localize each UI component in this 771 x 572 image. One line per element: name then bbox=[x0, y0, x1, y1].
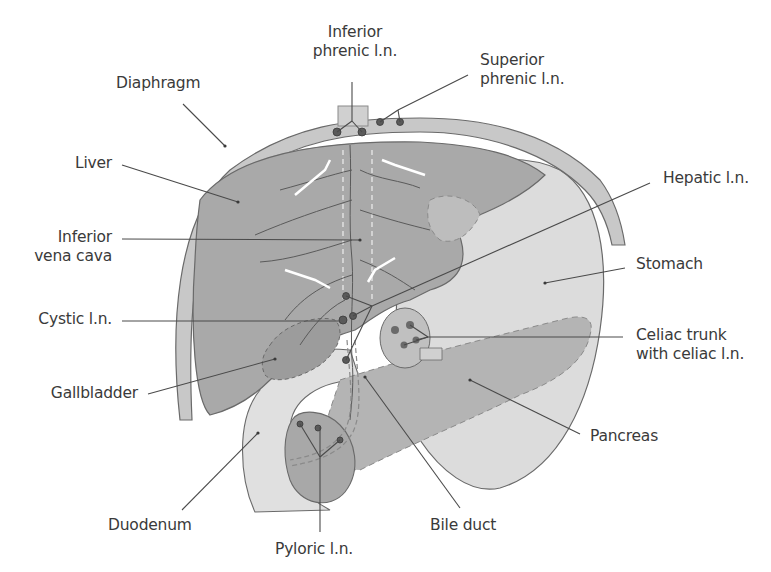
label-pancreas: Pancreas bbox=[590, 427, 658, 446]
label-celiac-trunk: Celiac trunk with celiac l.n. bbox=[636, 326, 744, 364]
label-cystic-ln: Cystic l.n. bbox=[10, 310, 112, 329]
label-line: Superior bbox=[480, 51, 564, 70]
label-line: phrenic l.n. bbox=[480, 70, 564, 89]
label-duodenum: Duodenum bbox=[108, 516, 192, 535]
label-pyloric-ln: Pyloric l.n. bbox=[275, 540, 353, 559]
esophagus-stub bbox=[338, 106, 368, 126]
label-inferior-phrenic-ln: Inferior phrenic l.n. bbox=[305, 23, 405, 61]
label-bile-duct: Bile duct bbox=[430, 516, 496, 535]
label-hepatic-ln: Hepatic l.n. bbox=[663, 169, 749, 188]
label-line: with celiac l.n. bbox=[636, 345, 744, 364]
label-inferior-vena-cava: Inferior vena cava bbox=[20, 228, 112, 266]
label-line: Celiac trunk bbox=[636, 326, 744, 345]
label-line: phrenic l.n. bbox=[305, 42, 405, 61]
label-gallbladder: Gallbladder bbox=[30, 384, 138, 403]
label-liver: Liver bbox=[40, 154, 112, 173]
label-line: Inferior bbox=[305, 23, 405, 42]
label-line: Inferior bbox=[20, 228, 112, 247]
label-line: vena cava bbox=[20, 247, 112, 266]
label-superior-phrenic-ln: Superior phrenic l.n. bbox=[480, 51, 564, 89]
label-diaphragm: Diaphragm bbox=[116, 74, 200, 93]
label-stomach: Stomach bbox=[636, 255, 703, 274]
